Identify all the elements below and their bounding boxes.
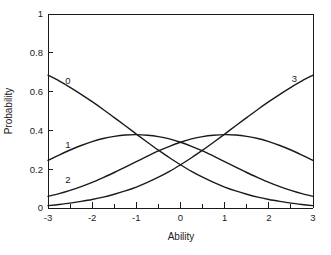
x-axis-title: Ability <box>168 231 195 242</box>
y-tick-label: 0.2 <box>30 164 43 175</box>
y-tick-label: 0.6 <box>30 86 43 97</box>
x-tick-label: 0 <box>178 212 183 223</box>
x-tick-label: 3 <box>310 212 315 223</box>
x-tick-label: -3 <box>44 212 52 223</box>
curve-label-3: 3 <box>292 73 297 84</box>
x-tick-label: -1 <box>132 212 140 223</box>
chart-figure: 00.20.40.60.81 -3-2-10123 0123 Ability P… <box>0 0 331 255</box>
x-tick-label: -2 <box>88 212 96 223</box>
y-tick-label: 0.8 <box>30 47 43 58</box>
category-response-curve-plot: 00.20.40.60.81 -3-2-10123 0123 Ability P… <box>0 0 331 255</box>
y-tick-label: 0.4 <box>30 125 43 136</box>
x-tick-label: 1 <box>222 212 227 223</box>
curve-label-1: 1 <box>65 139 70 150</box>
y-tick-label: 0 <box>38 202 43 213</box>
y-tick-label: 1 <box>38 8 43 19</box>
y-axis-title: Probability <box>3 88 14 135</box>
curve-label-0: 0 <box>65 75 70 86</box>
curve-label-2: 2 <box>65 174 70 185</box>
x-tick-label: 2 <box>266 212 271 223</box>
